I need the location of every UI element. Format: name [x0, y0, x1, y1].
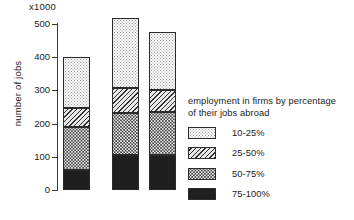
y-tick-mark-200 [52, 124, 58, 125]
legend-label-50-75: 50-75% [232, 169, 265, 179]
bar-3-segment-50-75% [149, 112, 176, 155]
legend-item-75-100: 75-100% [188, 187, 352, 202]
bar-3-segment-10-25% [149, 32, 176, 90]
stacked-bar-chart: x1000 number of jobs 5004003002001000 em… [0, 0, 354, 220]
legend-title-line-2: of their jobs abroad [188, 108, 352, 120]
bar-3 [149, 32, 176, 190]
legend-label-25-50: 25-50% [232, 148, 265, 158]
legend-item-10-25: 10-25% [188, 125, 352, 140]
bar-2-segment-75-100% [112, 155, 139, 190]
y-tick-mark-400 [52, 57, 58, 58]
y-tick-label-wrap-300: 300 [0, 85, 50, 95]
legend-item-25-50: 25-50% [188, 146, 352, 161]
bar-1-segment-75-100% [63, 170, 90, 190]
bar-1 [63, 57, 90, 190]
legend-swatch-25-50-icon [188, 147, 216, 159]
legend-label-75-100: 75-100% [232, 189, 270, 199]
y-tick-label-wrap-500: 500 [0, 19, 50, 29]
y-tick-label-wrap-400: 400 [0, 52, 50, 62]
y-tick-label-wrap-0: 0 [0, 185, 50, 195]
y-tick-mark-0 [52, 190, 58, 191]
bar-3-segment-75-100% [149, 155, 176, 190]
y-axis-line [57, 23, 58, 191]
legend-item-50-75: 50-75% [188, 166, 352, 181]
bar-1-segment-25-50% [63, 108, 90, 127]
y-tick-mark-300 [52, 90, 58, 91]
y-tick-label-400: 400 [34, 52, 50, 62]
y-tick-label-300: 300 [34, 85, 50, 95]
bar-3-segment-25-50% [149, 90, 176, 112]
y-tick-mark-500 [52, 24, 58, 25]
axis-unit-label: x1000 [29, 1, 56, 12]
bar-1-segment-10-25% [63, 57, 90, 108]
legend: employment in firms by percentage of the… [188, 96, 352, 207]
legend-title: employment in firms by percentage of the… [188, 96, 352, 119]
legend-swatch-10-25-icon [188, 127, 216, 139]
bar-2 [112, 18, 139, 190]
y-tick-mark-100 [52, 157, 58, 158]
bar-2-segment-10-25% [112, 18, 139, 88]
legend-swatch-50-75-icon [188, 168, 216, 180]
legend-swatch-75-100-icon [188, 188, 216, 200]
legend-title-line-1: employment in firms by percentage [188, 96, 352, 108]
y-tick-label-wrap-200: 200 [0, 119, 50, 129]
y-tick-label-0: 0 [45, 185, 50, 195]
y-tick-label-500: 500 [34, 19, 50, 29]
bar-2-segment-25-50% [112, 88, 139, 113]
bar-1-segment-50-75% [63, 127, 90, 170]
y-tick-label-100: 100 [34, 152, 50, 162]
legend-label-10-25: 10-25% [232, 128, 265, 138]
y-tick-label-wrap-100: 100 [0, 152, 50, 162]
y-tick-label-200: 200 [34, 119, 50, 129]
bar-2-segment-50-75% [112, 113, 139, 155]
